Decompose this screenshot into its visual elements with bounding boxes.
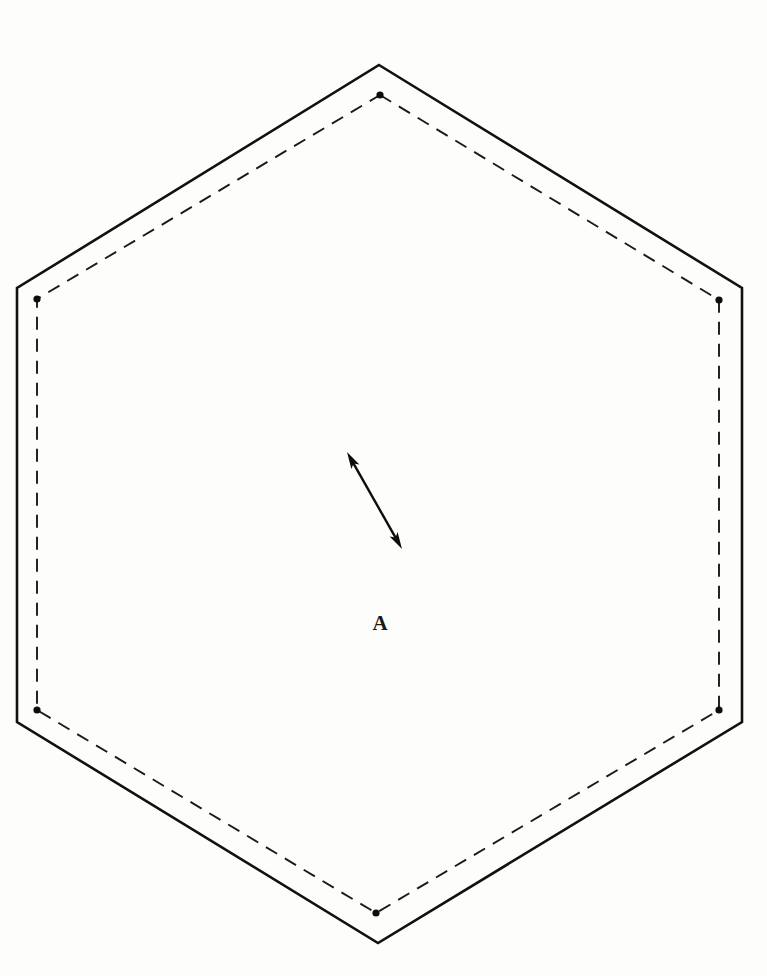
hexagon-diagram: A [0,0,767,976]
arrow-head-lower-right-icon [390,532,402,549]
region-label-a: A [372,611,388,635]
vertex-dot [372,909,379,916]
arrow-shaft [352,460,398,541]
figure-canvas: A [0,0,767,976]
vertex-dot [715,296,722,303]
vertex-dot [33,706,40,713]
inner-hexagon-dashed-boundary [37,95,719,913]
vertex-dot [376,91,383,98]
arrow-head-upper-left-icon [347,452,359,469]
outer-hexagon-boundary [17,65,742,943]
vertex-dot [715,706,722,713]
vertex-dot [33,295,40,302]
double-headed-arrow [347,452,402,549]
